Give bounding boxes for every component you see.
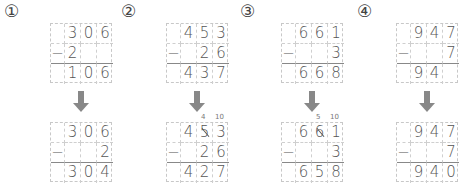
mid-row-digit-cell: − — [51, 143, 65, 163]
top-row-digit-cell: 5 — [197, 123, 213, 143]
mid-row-digit-cell — [97, 44, 113, 64]
top-row-digit-cell: 7 — [443, 123, 459, 143]
top-row-digit-cell: 4 — [181, 123, 197, 143]
problem-1-before-grid: 306−2106 — [50, 23, 112, 83]
bottom-row-digit-cell: 5 — [312, 163, 328, 183]
bottom-row-digit-cell: 9 — [411, 64, 427, 84]
bottom-row-digit-cell — [51, 64, 65, 84]
problem-4-before-grid: 947−794 — [396, 23, 458, 83]
arrow-down-icon — [306, 91, 318, 113]
bottom-row-digit-cell: 1 — [65, 64, 81, 84]
mid-row-digit-cell — [65, 143, 81, 163]
bottom-row-digit-cell: 0 — [81, 163, 97, 183]
bottom-row-digit-cell: 2 — [197, 163, 213, 183]
bottom-row-digit-cell: 7 — [213, 64, 229, 84]
mid-row-digit-cell: 2 — [197, 143, 213, 163]
top-row-digit-cell: 7 — [443, 24, 459, 44]
top-row-digit-cell: 0 — [81, 24, 97, 44]
bottom-row-digit-cell: 4 — [181, 163, 197, 183]
problem-2-after-grid: 453−26427 — [166, 122, 228, 182]
mid-row-digit-cell — [81, 44, 97, 64]
mid-row-digit-cell: 3 — [328, 44, 344, 64]
bottom-row-digit-cell: 3 — [65, 163, 81, 183]
mid-row-digit-cell — [312, 143, 328, 163]
top-row-digit-cell: 9 — [411, 123, 427, 143]
mid-row-digit-cell: 2 — [197, 44, 213, 64]
arrow-down-icon — [421, 91, 433, 113]
problem-number-label: ② — [121, 1, 136, 21]
mid-row-digit-cell — [411, 44, 427, 64]
top-row-digit-cell: 3 — [65, 123, 81, 143]
mid-row-digit-cell — [81, 143, 97, 163]
top-row-digit-cell: 6 — [312, 123, 328, 143]
top-row-digit-cell — [397, 123, 411, 143]
mid-row-digit-cell: 6 — [213, 143, 229, 163]
top-row-digit-cell: 3 — [213, 24, 229, 44]
borrow-tens-note: 4 — [201, 113, 205, 121]
top-row-digit-cell: 6 — [296, 24, 312, 44]
bottom-row-digit-cell: 0 — [81, 64, 97, 84]
mid-row-digit-cell: − — [282, 44, 296, 64]
top-row-digit-cell: 1 — [328, 24, 344, 44]
top-row-digit-cell: 6 — [312, 24, 328, 44]
top-row-digit-cell — [282, 24, 296, 44]
mid-row-digit-cell: − — [397, 44, 411, 64]
mid-row-digit-cell — [427, 143, 443, 163]
mid-row-digit-cell — [427, 44, 443, 64]
mid-row-digit-cell — [312, 44, 328, 64]
bottom-row-digit-cell: 6 — [296, 163, 312, 183]
top-row-digit-cell — [167, 24, 181, 44]
mid-row-digit-cell: − — [397, 143, 411, 163]
top-row-digit-cell: 4 — [427, 123, 443, 143]
top-row-digit-cell: 4 — [427, 24, 443, 44]
top-row-digit-cell: 3 — [213, 123, 229, 143]
bottom-row-digit-cell: 6 — [312, 64, 328, 84]
top-row-digit-cell: 6 — [97, 24, 113, 44]
bottom-row-digit-cell: 8 — [328, 163, 344, 183]
bottom-row-digit-cell: 3 — [197, 64, 213, 84]
borrow-tens-note: 5 — [316, 113, 320, 121]
problem-3-after-grid: 661−3658 — [281, 122, 343, 182]
borrow-ones-note: 10 — [330, 113, 339, 121]
top-row-digit-cell — [397, 24, 411, 44]
mid-row-digit-cell: − — [282, 143, 296, 163]
top-row-digit-cell: 0 — [81, 123, 97, 143]
top-row-digit-cell: 9 — [411, 24, 427, 44]
mid-row-digit-cell — [296, 44, 312, 64]
mid-row-digit-cell: 2 — [65, 44, 81, 64]
bottom-row-digit-cell — [282, 163, 296, 183]
top-row-digit-cell: 1 — [328, 123, 344, 143]
top-row-digit-cell — [51, 24, 65, 44]
borrow-ones-note: 10 — [215, 113, 224, 121]
problem-number-label: ① — [4, 1, 19, 21]
mid-row-digit-cell: 7 — [443, 44, 459, 64]
problem-3-before-grid: 661−3668 — [281, 23, 343, 83]
top-row-digit-cell — [282, 123, 296, 143]
arrow-down-icon — [75, 91, 87, 113]
bottom-row-digit-cell: 6 — [97, 64, 113, 84]
mid-row-digit-cell: 7 — [443, 143, 459, 163]
bottom-row-digit-cell — [443, 64, 459, 84]
mid-row-digit-cell — [181, 143, 197, 163]
top-row-digit-cell — [51, 123, 65, 143]
mid-row-digit-cell: 2 — [97, 143, 113, 163]
mid-row-digit-cell: − — [167, 44, 181, 64]
problem-1-after-grid: 306−2304 — [50, 122, 112, 182]
problem-2-before-grid: 453−26437 — [166, 23, 228, 83]
bottom-row-digit-cell: 0 — [443, 163, 459, 183]
bottom-row-digit-cell: 9 — [411, 163, 427, 183]
bottom-row-digit-cell: 4 — [181, 64, 197, 84]
arrow-down-icon — [191, 91, 203, 113]
bottom-row-digit-cell — [397, 64, 411, 84]
bottom-row-digit-cell — [167, 64, 181, 84]
mid-row-digit-cell: 6 — [213, 44, 229, 64]
mid-row-digit-cell: − — [51, 44, 65, 64]
mid-row-digit-cell — [411, 143, 427, 163]
bottom-row-digit-cell: 7 — [213, 163, 229, 183]
mid-row-digit-cell: 3 — [328, 143, 344, 163]
bottom-row-digit-cell: 8 — [328, 64, 344, 84]
bottom-row-digit-cell — [282, 64, 296, 84]
bottom-row-digit-cell: 6 — [296, 64, 312, 84]
strike-slash-icon — [317, 128, 325, 137]
problem-number-label: ④ — [357, 1, 372, 21]
